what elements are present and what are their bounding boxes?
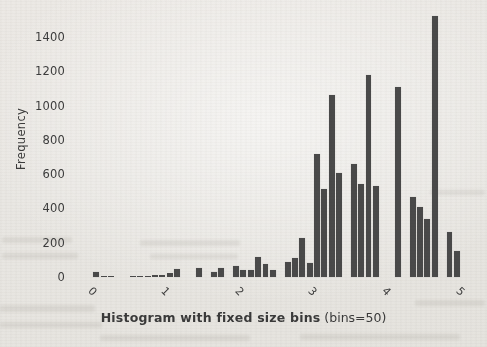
histogram-bar xyxy=(321,189,327,277)
y-tick-label: 400 xyxy=(0,201,65,215)
histogram-bar xyxy=(329,95,335,277)
y-tick-label: 800 xyxy=(0,133,65,147)
y-tick-label: 1400 xyxy=(0,30,65,44)
histogram-bar xyxy=(263,264,269,277)
scanned-page: Frequency 0200400600800100012001400 0123… xyxy=(0,0,487,347)
histogram-bar xyxy=(299,238,305,277)
histogram-bar xyxy=(432,16,438,277)
histogram-bar xyxy=(307,263,313,277)
histogram-bar xyxy=(447,232,453,277)
chart-title-main: Histogram with fixed size bins xyxy=(101,310,321,325)
histogram-bar xyxy=(358,184,364,277)
histogram-bar xyxy=(233,266,239,277)
x-tick-label: 4 xyxy=(379,284,393,298)
histogram-bar xyxy=(159,275,165,277)
histogram-bar xyxy=(196,268,202,277)
y-tick-label: 1000 xyxy=(0,99,65,113)
histogram-bar xyxy=(424,219,430,277)
histogram-bar xyxy=(167,273,173,277)
x-tick-label: 3 xyxy=(306,284,320,298)
histogram-bar xyxy=(410,197,416,277)
histogram-bar xyxy=(108,276,114,277)
chart-title: Histogram with fixed size bins (bins=50) xyxy=(0,310,487,325)
histogram-bar xyxy=(395,87,401,277)
histogram-bar xyxy=(292,258,298,277)
histogram-bar xyxy=(211,272,217,277)
histogram-bar xyxy=(336,173,342,277)
histogram-bar xyxy=(373,186,379,277)
histogram-bar xyxy=(248,270,254,277)
y-tick-label: 200 xyxy=(0,236,65,250)
histogram-bar xyxy=(145,276,151,277)
x-tick-label: 1 xyxy=(159,284,173,298)
histogram-bar xyxy=(93,272,99,277)
histogram-bar xyxy=(454,251,460,277)
histogram-bar xyxy=(101,276,107,277)
histogram-bar xyxy=(314,154,320,277)
histogram-bar xyxy=(130,276,136,277)
histogram-bar xyxy=(366,75,372,277)
histogram-bar xyxy=(255,257,261,277)
histogram-bar xyxy=(285,262,291,277)
chart-title-suffix: (bins=50) xyxy=(320,310,386,325)
histogram-bar xyxy=(218,268,224,277)
histogram-bar xyxy=(417,207,423,277)
x-tick-label: 5 xyxy=(453,284,467,298)
y-tick-label: 1200 xyxy=(0,64,65,78)
histogram-bar xyxy=(351,164,357,277)
x-tick-label: 0 xyxy=(85,284,99,298)
histogram-bar xyxy=(137,276,143,277)
histogram-bar xyxy=(152,275,158,277)
histogram-bar xyxy=(174,269,180,277)
y-tick-label: 0 xyxy=(0,270,65,284)
histogram-chart: Frequency 0200400600800100012001400 0123… xyxy=(0,0,487,347)
y-tick-label: 600 xyxy=(0,167,65,181)
histogram-bar xyxy=(270,270,276,277)
histogram-bar xyxy=(240,270,246,277)
x-tick-label: 2 xyxy=(232,284,246,298)
